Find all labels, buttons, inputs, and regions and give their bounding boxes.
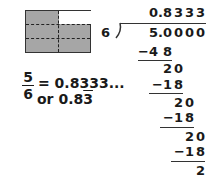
quotient-digit: 3 <box>184 6 195 20</box>
subtraction-line <box>171 161 205 162</box>
subtraction-line <box>149 93 183 94</box>
subtrahend: 8 <box>195 145 206 159</box>
dividend-digit: 0 <box>173 26 184 40</box>
division-bracket-icon <box>113 22 123 40</box>
remainder: 0 <box>184 96 195 110</box>
dividend-digit: 0 <box>162 26 173 40</box>
long-division: 0 . 8 3 3 3 6 5 . 0 0 0 0 −4 8 2 0 −1 8 … <box>0 0 213 185</box>
dividend-digit: 0 <box>195 26 206 40</box>
subtrahend: 8 <box>173 78 184 92</box>
quotient-digit: 3 <box>195 6 206 20</box>
subtraction-line <box>160 127 194 128</box>
quotient-digit: 8 <box>162 6 173 20</box>
remainder: 2 <box>162 62 173 76</box>
dividend-digit: 0 <box>184 26 195 40</box>
quotient-digit: 3 <box>173 6 184 20</box>
remainder: 2 <box>184 130 195 144</box>
subtrahend: −1 <box>161 111 183 125</box>
remainder: 2 <box>173 96 184 110</box>
remainder: 0 <box>195 130 206 144</box>
subtrahend: −4 <box>136 45 158 59</box>
remainder: 0 <box>173 62 184 76</box>
subtrahend: 8 <box>184 111 195 125</box>
subtrahend: 8 <box>162 45 173 59</box>
division-bracket-top <box>120 23 206 24</box>
divisor: 6 <box>100 26 111 40</box>
subtrahend: −1 <box>150 78 172 92</box>
subtrahend: −1 <box>172 145 194 159</box>
final-remainder: 2 <box>195 164 206 178</box>
